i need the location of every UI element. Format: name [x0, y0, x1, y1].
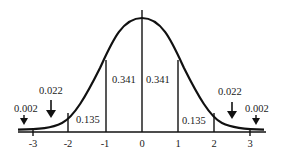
label-left-center: 0.341 — [112, 74, 136, 85]
label-left-tail-outer: 0.002 — [14, 103, 38, 114]
label-right-tail-inner: 0.022 — [218, 86, 242, 97]
label-right-tail-outer: 0.002 — [245, 103, 269, 114]
label-right-band: 0.135 — [182, 115, 206, 126]
tick-label-minus-3: -3 — [29, 138, 38, 149]
arrow-down-icon — [46, 100, 56, 118]
label-left-tail-inner: 0.022 — [39, 85, 63, 96]
tick-label-plus-1: 1 — [175, 138, 180, 149]
arrow-down-icon — [20, 115, 28, 125]
tick-label-minus-2: -2 — [64, 138, 73, 149]
label-right-center: 0.341 — [146, 74, 170, 85]
tick-label-minus-1: -1 — [101, 138, 110, 149]
arrow-down-icon — [252, 115, 260, 125]
tick-label-plus-2: 2 — [211, 138, 216, 149]
bell-curve — [18, 18, 264, 130]
tick-label-plus-3: 3 — [247, 138, 252, 149]
normal-curve-diagram: -3 -2 -1 0 1 2 3 0.341 0.341 0.135 0.135… — [0, 0, 282, 156]
tick-label-0: 0 — [139, 138, 144, 149]
arrow-down-icon — [227, 102, 237, 119]
label-left-band: 0.135 — [76, 114, 100, 125]
